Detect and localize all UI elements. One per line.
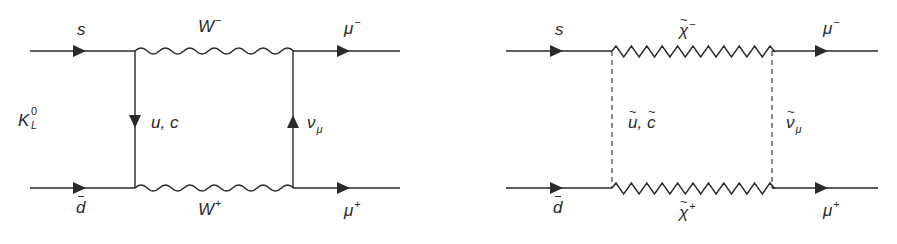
s-quark-label: s xyxy=(77,21,86,38)
susy-box-diagram xyxy=(506,46,878,194)
sneutrino-label: νμ xyxy=(786,114,802,131)
squark-label: u, c xyxy=(628,114,655,131)
mu-minus-arrow-icon xyxy=(815,45,828,57)
w-minus-propagator xyxy=(135,48,294,54)
mu-minus-arrow-icon xyxy=(337,45,350,57)
mu-plus-label: μ+ xyxy=(823,202,840,219)
dbar-quark-label: d xyxy=(553,199,562,216)
chargino-plus-label: χ+ xyxy=(679,204,696,221)
w-minus-label: W− xyxy=(198,18,221,35)
dbar-quark-label: d xyxy=(76,199,85,216)
kaon-label: K0L xyxy=(18,112,29,129)
mu-plus-label: μ+ xyxy=(344,202,361,219)
up-charm-arrow-down-icon xyxy=(129,115,141,128)
chargino-plus-propagator xyxy=(612,183,775,194)
chargino-minus-label: χ− xyxy=(679,22,696,39)
mu-minus-label: μ− xyxy=(823,20,840,37)
mu-plus-arrow-icon xyxy=(815,182,828,194)
neutrino-label: νμ xyxy=(307,114,323,131)
s-arrow-icon xyxy=(73,45,86,57)
feynman-diagrams-canvas xyxy=(0,0,897,244)
dbar-arrow-icon xyxy=(73,182,86,194)
neutrino-arrow-up-icon xyxy=(287,115,299,128)
up-charm-label: u, c xyxy=(151,114,178,131)
sm-box-diagram xyxy=(30,48,400,191)
dbar-arrow-icon xyxy=(550,182,563,194)
s-quark-label: s xyxy=(555,21,564,38)
w-plus-label: W+ xyxy=(198,201,221,218)
w-plus-propagator xyxy=(135,185,294,191)
mu-plus-arrow-icon xyxy=(337,182,350,194)
chargino-minus-propagator xyxy=(612,46,775,57)
s-arrow-icon xyxy=(550,45,563,57)
mu-minus-label: μ− xyxy=(344,20,361,37)
